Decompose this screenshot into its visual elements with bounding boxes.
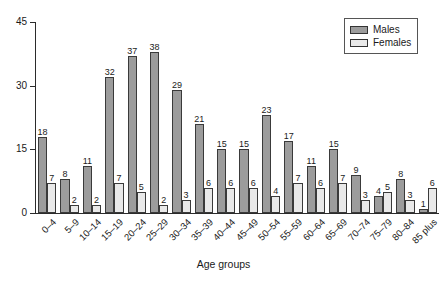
plot-area: 1878211232737538229321615615623417711615… xyxy=(36,22,439,213)
bar-group: 82 xyxy=(60,22,78,213)
x-category-label: 85 plus xyxy=(410,217,439,246)
bar-males-0–4: 18 xyxy=(38,137,47,213)
bar-value-label: 6 xyxy=(228,178,233,188)
bar-females-15–19: 7 xyxy=(114,183,123,213)
x-category-label: 30–34 xyxy=(167,217,193,243)
x-category-label: 0–4 xyxy=(40,217,58,235)
bar-males-55–59: 17 xyxy=(284,141,293,213)
bar-females-80–84: 3 xyxy=(405,200,414,213)
bar-group: 157 xyxy=(329,22,347,213)
bar-group: 327 xyxy=(105,22,123,213)
bar-females-0–4: 7 xyxy=(47,183,56,213)
bar-males-15–19: 32 xyxy=(105,77,114,213)
bar-males-25–29: 38 xyxy=(150,52,159,213)
bar-females-10–14: 2 xyxy=(92,205,101,213)
y-tick-label: 0 xyxy=(21,207,27,218)
bar-value-label: 8 xyxy=(398,169,403,179)
x-category-label: 55–59 xyxy=(279,217,305,243)
bar-females-20–24: 5 xyxy=(137,192,146,213)
bar-value-label: 15 xyxy=(217,139,227,149)
bar-males-40–44: 15 xyxy=(217,149,226,213)
bar-value-label: 8 xyxy=(62,169,67,179)
bar-males-35–39: 21 xyxy=(195,124,204,213)
bar-value-label: 7 xyxy=(116,173,121,183)
x-category-label: 75–79 xyxy=(368,217,394,243)
bar-males-70–74: 9 xyxy=(351,175,360,213)
bar-group: 293 xyxy=(172,22,190,213)
bar-group: 375 xyxy=(128,22,146,213)
bar-females-5–9: 2 xyxy=(70,205,79,213)
x-category-label: 70–74 xyxy=(346,217,372,243)
bar-group: 156 xyxy=(239,22,257,213)
bar-value-label: 3 xyxy=(184,190,189,200)
y-tick-0: 0 xyxy=(30,213,36,214)
x-category-label: 20–24 xyxy=(122,217,148,243)
bar-value-label: 6 xyxy=(251,178,256,188)
bar-group: 83 xyxy=(396,22,414,213)
bar-value-label: 6 xyxy=(206,178,211,188)
bar-males-75–79: 4 xyxy=(374,196,383,213)
bar-females-65–69: 7 xyxy=(338,183,347,213)
bar-group: 45 xyxy=(374,22,392,213)
y-tick-label: 45 xyxy=(16,16,27,27)
bar-chart: Males Females 0153045 187821123273753822… xyxy=(0,0,447,281)
x-axis-title: Age groups xyxy=(0,258,447,270)
bar-group: 216 xyxy=(195,22,213,213)
bar-value-label: 2 xyxy=(72,195,77,205)
x-category-label: 40–44 xyxy=(212,217,238,243)
x-axis-line xyxy=(35,213,439,214)
bar-value-label: 4 xyxy=(376,186,381,196)
bar-males-80–84: 8 xyxy=(396,179,405,213)
bar-value-label: 5 xyxy=(139,182,144,192)
x-category-label: 60–64 xyxy=(301,217,327,243)
bar-males-65–69: 15 xyxy=(329,149,338,213)
bar-value-label: 38 xyxy=(150,42,160,52)
bar-females-45–49: 6 xyxy=(249,188,258,213)
bar-value-label: 2 xyxy=(161,195,166,205)
bar-group: 382 xyxy=(150,22,168,213)
bar-group: 116 xyxy=(307,22,325,213)
bar-value-label: 7 xyxy=(296,173,301,183)
bar-value-label: 11 xyxy=(307,156,316,166)
x-category-label: 45–49 xyxy=(234,217,260,243)
bar-females-50–54: 4 xyxy=(271,196,280,213)
bar-group: 16 xyxy=(419,22,437,213)
y-tick-label: 15 xyxy=(16,143,27,154)
bar-females-25–29: 2 xyxy=(159,205,168,213)
bar-males-60–64: 11 xyxy=(307,166,316,213)
bar-females-30–34: 3 xyxy=(182,200,191,213)
bar-group: 156 xyxy=(217,22,235,213)
bar-females-85-plus: 6 xyxy=(428,188,437,213)
bar-females-70–74: 3 xyxy=(361,200,370,213)
bar-value-label: 4 xyxy=(273,186,278,196)
x-category-label: 35–39 xyxy=(189,217,215,243)
bar-value-label: 29 xyxy=(172,80,182,90)
bar-value-label: 23 xyxy=(261,105,271,115)
x-category-label: 25–29 xyxy=(144,217,170,243)
bar-value-label: 17 xyxy=(284,131,294,141)
bar-value-label: 3 xyxy=(363,190,368,200)
y-tick-label: 30 xyxy=(16,80,27,91)
bar-value-label: 9 xyxy=(354,165,359,175)
bar-females-60–64: 6 xyxy=(316,188,325,213)
bar-value-label: 21 xyxy=(194,114,204,124)
bar-value-label: 6 xyxy=(430,178,435,188)
bar-males-20–24: 37 xyxy=(128,56,137,213)
x-category-label: 15–19 xyxy=(100,217,126,243)
bar-value-label: 18 xyxy=(38,127,48,137)
bar-value-label: 3 xyxy=(407,190,412,200)
bar-females-40–44: 6 xyxy=(226,188,235,213)
bar-value-label: 7 xyxy=(49,173,54,183)
bar-males-5–9: 8 xyxy=(60,179,69,213)
bar-males-50–54: 23 xyxy=(262,115,271,213)
bar-value-label: 32 xyxy=(105,67,115,77)
bar-group: 234 xyxy=(262,22,280,213)
bar-group: 177 xyxy=(284,22,302,213)
bar-value-label: 1 xyxy=(421,199,426,209)
bar-value-label: 15 xyxy=(239,139,249,149)
bar-males-30–34: 29 xyxy=(172,90,181,213)
bar-value-label: 15 xyxy=(329,139,339,149)
bar-value-label: 37 xyxy=(127,46,137,56)
bar-value-label: 2 xyxy=(94,195,99,205)
bar-value-label: 7 xyxy=(340,173,345,183)
